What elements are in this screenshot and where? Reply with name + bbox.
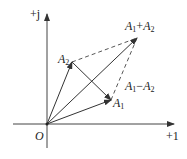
dashed-a2-to-sum [72,38,137,62]
label-a2: A2 [58,53,69,67]
origin-dot [46,123,49,126]
real-axis-label: +1 [166,130,179,142]
imag-axis-label: +j [30,8,40,20]
vector-a2 [47,62,72,124]
phasor-diagram [0,0,187,159]
label-a1: A1 [113,97,124,111]
label-sum: A1+A2 [125,20,154,34]
label-diff: A1−A2 [125,80,154,94]
vector-a1 [47,100,111,124]
origin-label: O [35,130,44,142]
